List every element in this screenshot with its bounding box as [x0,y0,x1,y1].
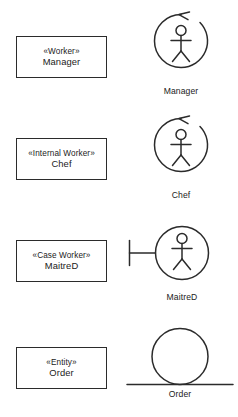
actor-leg-right [181,155,190,166]
class-box-name: Chef [51,158,71,169]
class-box-stereotype: «Case Worker» [32,251,90,261]
class-box-stereotype: «Worker» [43,47,79,57]
entity-icon-order[interactable] [124,325,236,387]
diagram-row-chef: «Internal Worker» Chef Chef [0,103,238,209]
class-box-name: MaitreD [45,260,79,271]
actor-icon-maitred[interactable] [125,218,213,290]
class-box-name: Manager [43,56,81,67]
entity-icon-label-order: Order [120,389,238,399]
actor-head [176,130,186,140]
actor-icon-label-maitred: MaitreD [122,292,238,302]
actor-icon-manager[interactable] [150,10,212,82]
class-box-stereotype: «Internal Worker» [28,149,95,159]
diagram-row-manager: «Worker» Manager Manager [0,0,238,110]
uml-notation-diagram: «Worker» Manager Manager «Internal Worke… [0,0,238,417]
class-box-chef[interactable]: «Internal Worker» Chef [16,138,107,180]
class-box-stereotype: «Entity» [46,358,76,368]
actor-leg-left [173,155,182,166]
class-box-order[interactable]: «Entity» Order [16,347,107,389]
diagram-row-order: «Entity» Order Order [0,314,238,417]
arrowhead-icon [179,12,190,20]
class-box-name: Order [49,367,73,378]
arrowhead-icon [179,116,190,124]
actor-head [177,234,187,244]
actor-icon-chef[interactable] [150,114,212,186]
actor-leg-left [174,259,183,270]
class-box-maitred[interactable]: «Case Worker» MaitreD [16,240,107,282]
actor-icon-label-chef: Chef [121,190,238,200]
actor-leg-left [173,51,182,62]
entity-circle [152,329,208,385]
class-box-manager[interactable]: «Worker» Manager [16,36,107,78]
diagram-row-maitred: «Case Worker» MaitreD MaitreD [0,208,238,314]
actor-icon-label-manager: Manager [121,86,238,96]
actor-leg-right [182,259,191,270]
actor-leg-right [181,51,190,62]
actor-head [176,26,186,36]
